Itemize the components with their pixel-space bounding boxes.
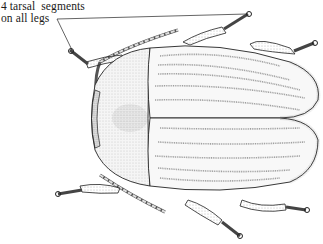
beetle-illustration <box>0 0 323 244</box>
elytron-upper <box>148 46 318 118</box>
